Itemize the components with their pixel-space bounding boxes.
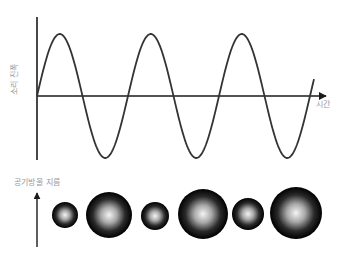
bubble-row	[52, 187, 322, 239]
bubble-large	[86, 192, 132, 238]
bubble-large	[178, 189, 228, 239]
bubble-small	[141, 202, 169, 230]
bubble-small	[232, 198, 264, 230]
diagram-canvas	[0, 0, 344, 262]
bubble-small	[52, 202, 78, 228]
amplitude-axis-label: 소리 진폭	[8, 63, 19, 95]
time-axis-label: 시간	[316, 98, 330, 109]
bubble-large	[270, 187, 322, 239]
bubble-diameter-label: 공기방울 지름	[14, 176, 60, 187]
sound-bubble-diagram: 소리 진폭 시간 공기방울 지름	[0, 0, 344, 262]
